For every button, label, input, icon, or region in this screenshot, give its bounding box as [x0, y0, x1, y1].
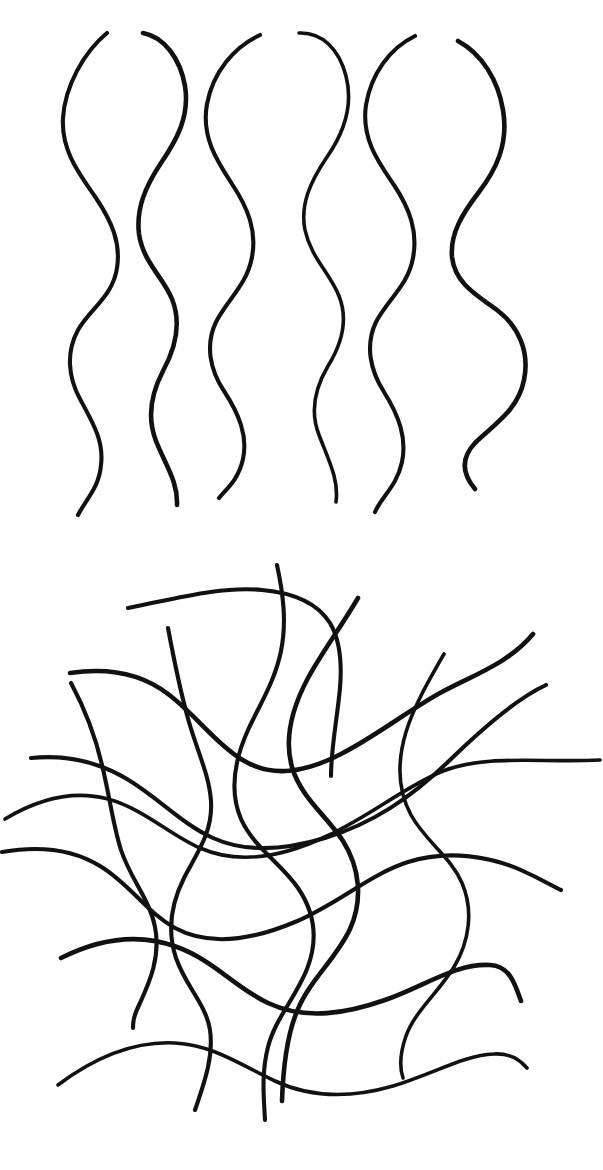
curve-chain-5 [365, 36, 415, 512]
aligned-chains-curve-group [63, 33, 526, 515]
panel-crosslinked-network [0, 560, 603, 1170]
curve-chain-2 [138, 33, 186, 505]
curve-strand-g [58, 1043, 527, 1095]
curve-strand-e [2, 849, 561, 939]
figure-sheet [0, 0, 603, 1170]
aligned-chains-drawing [0, 0, 603, 560]
curve-strand-b [70, 634, 533, 771]
curve-chain-4 [299, 33, 349, 502]
curve-strand-l [71, 683, 157, 1028]
curve-chain-1 [63, 33, 118, 515]
curve-strand-k [400, 654, 469, 1078]
curve-strand-c [31, 685, 546, 848]
curve-chain-6 [452, 41, 526, 489]
curve-strand-a [128, 589, 341, 776]
crosslinked-network-curve-group [2, 565, 600, 1120]
panel-aligned-chains [0, 0, 603, 560]
curve-chain-3 [206, 35, 260, 498]
crosslinked-network-drawing [0, 560, 603, 1170]
